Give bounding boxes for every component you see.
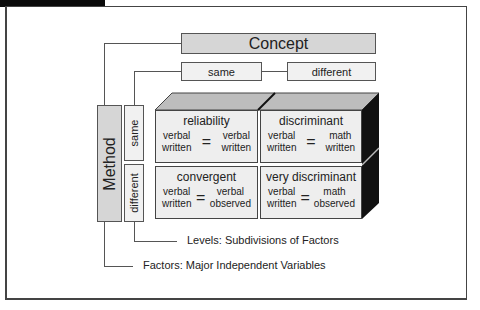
cell-right-line1: verbal — [210, 186, 251, 198]
cell-left-line2: written — [267, 142, 296, 154]
cell-right-line1: math — [326, 130, 355, 142]
equals-symbol: = — [202, 136, 211, 148]
cell-title: convergent — [156, 170, 257, 184]
cell-right-line1: math — [314, 186, 355, 198]
factors-legend-label: Factors: Major Independent Variables — [143, 259, 326, 271]
equals-symbol: = — [196, 192, 205, 204]
cell-reliability: reliability verbalwritten = verbalwritte… — [155, 110, 258, 163]
cell-right-line2: observed — [314, 198, 355, 210]
cell-right-line2: written — [222, 142, 251, 154]
levels-legend-label: Levels: Subdivisions of Factors — [187, 234, 339, 246]
cell-title: very discriminant — [261, 170, 361, 184]
cell-title: reliability — [156, 114, 257, 128]
cell-discriminant: discriminant verbalwritten = mathwritten — [260, 110, 362, 163]
cell-right-line1: verbal — [222, 130, 251, 142]
cell-title: discriminant — [261, 114, 361, 128]
cell-left-line1: verbal — [267, 186, 296, 198]
equals-symbol: = — [306, 136, 315, 148]
cell-left-line1: verbal — [162, 186, 191, 198]
cell-very-discriminant: very discriminant verbalwritten = mathob… — [260, 166, 362, 219]
cell-left-line2: written — [162, 198, 191, 210]
cell-right-line2: written — [326, 142, 355, 154]
cell-left-line2: written — [162, 142, 191, 154]
cell-left-line1: verbal — [267, 130, 296, 142]
equals-symbol: = — [300, 192, 309, 204]
cell-convergent: convergent verbalwritten = verbalobserve… — [155, 166, 258, 219]
cell-left-line2: written — [267, 198, 296, 210]
cell-right-line2: observed — [210, 198, 251, 210]
cell-left-line1: verbal — [162, 130, 191, 142]
